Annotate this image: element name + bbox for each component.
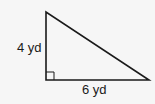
vertical-leg-label: 4 yd bbox=[17, 41, 42, 54]
right-triangle-figure: 4 yd 6 yd bbox=[0, 0, 155, 104]
right-angle-marker bbox=[46, 72, 54, 80]
triangle-outline bbox=[46, 12, 149, 80]
horizontal-leg-label: 6 yd bbox=[82, 83, 107, 96]
